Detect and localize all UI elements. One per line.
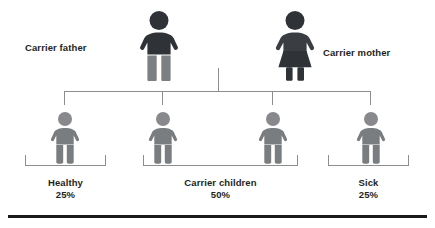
outcome-carrier-children-label: Carrier children bbox=[184, 177, 256, 188]
outcome-healthy-percent: 25% bbox=[25, 189, 106, 201]
outcome-sick-label: Sick bbox=[359, 177, 379, 188]
male-person-icon bbox=[136, 11, 182, 81]
inheritance-diagram: Carrier father Carrier mother bbox=[0, 0, 435, 228]
sibship-horizontal-line bbox=[64, 91, 371, 92]
bottom-divider bbox=[8, 215, 427, 218]
bracket-sick bbox=[328, 155, 409, 166]
bracket-carrier-children bbox=[143, 155, 298, 166]
child-drop-line-2 bbox=[162, 91, 163, 105]
carrier-mother-label: Carrier mother bbox=[323, 47, 390, 58]
bracket-healthy bbox=[25, 155, 106, 166]
outcome-healthy: Healthy 25% bbox=[25, 177, 106, 201]
carrier-father-label: Carrier father bbox=[25, 42, 87, 53]
parents-connector-line bbox=[218, 68, 219, 92]
outcome-sick: Sick 25% bbox=[328, 177, 409, 201]
outcome-healthy-label: Healthy bbox=[48, 177, 83, 188]
outcome-carrier-children-percent: 50% bbox=[143, 189, 298, 201]
child-drop-line-1 bbox=[64, 91, 65, 105]
outcome-carrier-children: Carrier children 50% bbox=[143, 177, 298, 201]
mother-figure bbox=[271, 11, 319, 81]
child-drop-line-4 bbox=[370, 91, 371, 105]
female-person-icon bbox=[271, 11, 319, 81]
outcome-sick-percent: 25% bbox=[328, 189, 409, 201]
father-figure bbox=[136, 11, 182, 81]
child-drop-line-3 bbox=[272, 91, 273, 105]
